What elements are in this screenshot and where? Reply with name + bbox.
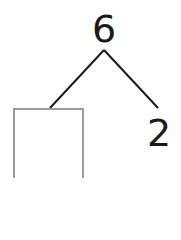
right-branch-line [104,50,158,108]
right-part-number: 2 [147,114,171,152]
left-branch-line [50,50,104,108]
missing-part-answer-box[interactable] [13,108,84,178]
